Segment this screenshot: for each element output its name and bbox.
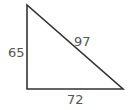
- horizontal-leg-label: 72: [67, 92, 84, 107]
- vertical-leg-label: 65: [8, 45, 25, 60]
- triangle-diagram: 65 97 72: [0, 0, 134, 110]
- hypotenuse-label: 97: [74, 34, 91, 49]
